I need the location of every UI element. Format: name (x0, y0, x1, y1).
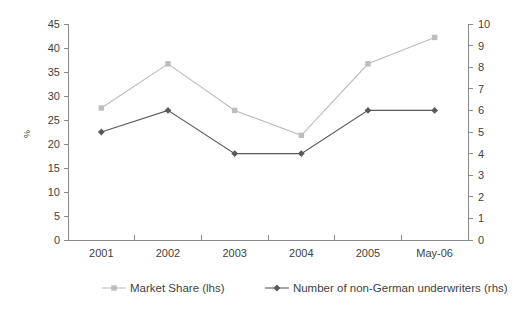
data-point-marker (99, 105, 104, 110)
right-axis-tick-label: 7 (478, 83, 484, 95)
legend-item-1 (102, 285, 126, 290)
left-axis-tick-label: 30 (48, 90, 60, 102)
left-axis-tick-label: 0 (54, 234, 60, 246)
data-point-marker (98, 129, 105, 136)
data-point-marker (231, 150, 238, 157)
data-point-marker (298, 150, 305, 157)
series-line (101, 110, 434, 153)
x-axis-tick-label: 2003 (222, 247, 246, 259)
x-axis-tick-label: 2001 (89, 247, 113, 259)
series-1 (99, 35, 438, 138)
right-axis-tick-label: 2 (478, 191, 484, 203)
left-axis-tick-label: 5 (54, 210, 60, 222)
data-point-marker (432, 35, 437, 40)
data-point-marker (431, 107, 438, 114)
left-axis-tick-label: 15 (48, 162, 60, 174)
data-point-marker (232, 108, 237, 113)
left-axis-tick-label: 40 (48, 42, 60, 54)
x-axis-tick-label: 2005 (356, 247, 380, 259)
legend-label: Number of non-German underwriters (rhs) (293, 282, 508, 294)
chart-container: 051015202530354045%012345678910200120022… (0, 0, 524, 313)
legend-label: Market Share (lhs) (130, 282, 225, 294)
right-axis-tick-label: 8 (478, 61, 484, 73)
right-axis-tick-label: 1 (478, 212, 484, 224)
legend-marker-square-icon (111, 285, 116, 290)
data-point-marker (165, 107, 172, 114)
legend-marker-diamond-icon (274, 285, 281, 292)
data-point-marker (365, 107, 372, 114)
right-axis-tick-label: 10 (478, 18, 490, 30)
data-point-marker (165, 61, 170, 66)
left-axis-tick-label: 25 (48, 114, 60, 126)
right-axis-tick-label: 6 (478, 104, 484, 116)
right-axis-tick-label: 9 (478, 40, 484, 52)
left-axis-tick-label: 35 (48, 66, 60, 78)
data-point-marker (299, 133, 304, 138)
left-axis-title: % (22, 130, 32, 138)
data-point-marker (365, 61, 370, 66)
right-axis-tick-label: 4 (478, 148, 484, 160)
right-axis-tick-label: 5 (478, 126, 484, 138)
left-axis-tick-label: 45 (48, 18, 60, 30)
series-2 (98, 107, 438, 157)
x-axis-tick-label: 2004 (289, 247, 313, 259)
x-axis-tick-label: 2002 (156, 247, 180, 259)
series-line (101, 37, 434, 135)
line-chart: 051015202530354045%012345678910200120022… (0, 0, 524, 313)
left-axis-tick-label: 10 (48, 186, 60, 198)
x-axis-tick-label: May-06 (416, 247, 453, 259)
right-axis-tick-label: 0 (478, 234, 484, 246)
left-axis-tick-label: 20 (48, 138, 60, 150)
right-axis-tick-label: 3 (478, 169, 484, 181)
legend-item-2 (265, 285, 289, 292)
